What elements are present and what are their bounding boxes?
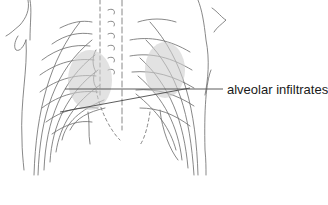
annotation-label-alveolar-infiltrates: alveolar infiltrates <box>227 83 328 96</box>
